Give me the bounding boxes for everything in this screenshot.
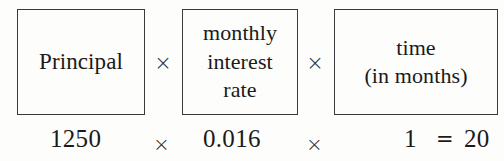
equals-icon: =	[436, 124, 454, 154]
term-label-time-in-months: time (in months)	[360, 34, 471, 89]
multiply-icon-2: ×	[304, 52, 326, 74]
formula-diagram: Principal × monthly interest rate × time…	[0, 0, 504, 161]
term-label-principal: Principal	[35, 47, 127, 76]
term-box-monthly-interest-rate: monthly interest rate	[182, 9, 298, 115]
value-principal: 1250	[50, 124, 101, 154]
value-time: 1	[404, 124, 417, 154]
term-box-time-in-months: time (in months)	[334, 9, 498, 115]
term-box-principal: Principal	[17, 9, 145, 115]
value-result: 20	[464, 124, 490, 154]
multiply-icon-1: ×	[152, 52, 174, 74]
value-rate: 0.016	[203, 124, 261, 154]
term-label-monthly-interest-rate: monthly interest rate	[199, 19, 281, 105]
multiply-icon-4: ×	[306, 129, 323, 159]
multiply-icon-3: ×	[153, 129, 170, 159]
